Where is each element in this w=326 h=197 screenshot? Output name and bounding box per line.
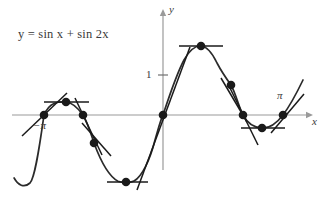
point-zero-pi — [279, 111, 288, 120]
point-local-min-left — [122, 178, 131, 187]
point-local-min-right — [258, 124, 267, 133]
function-graph-figure: y = sin x + sin 2x y x 1 −π π — [0, 0, 326, 197]
point-zero-neg-pi — [40, 111, 49, 120]
point-zero-2pi-3 — [239, 111, 248, 120]
x-axis-label: x — [312, 115, 317, 127]
x-tick-label-pi: π — [277, 89, 283, 101]
point-global-max — [197, 42, 206, 51]
y-axis-arrow — [160, 9, 166, 16]
x-tick-label-neg-pi: −π — [33, 119, 46, 131]
point-zero-neg-2pi-3 — [79, 111, 88, 120]
curve-group — [14, 46, 303, 186]
point-inflection-left — [90, 139, 99, 148]
sine-sum-curve — [14, 46, 303, 186]
equation-label: y = sin x + sin 2x — [18, 27, 109, 42]
point-inflection-right — [227, 81, 236, 90]
y-tick-label-one: 1 — [146, 68, 152, 80]
point-origin — [159, 111, 168, 120]
tangent-slope-neg-two-thirds-pi — [75, 98, 102, 155]
y-axis-label: y — [169, 3, 174, 15]
tangent-slope-pi — [271, 94, 304, 133]
point-local-max-left — [62, 98, 71, 107]
